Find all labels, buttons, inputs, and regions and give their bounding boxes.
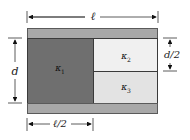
separation-label: d xyxy=(10,66,19,77)
half-separation-label: d/2 xyxy=(163,50,181,60)
half-length-label: ℓ/2 xyxy=(52,119,68,129)
length-label: ℓ xyxy=(90,11,97,22)
